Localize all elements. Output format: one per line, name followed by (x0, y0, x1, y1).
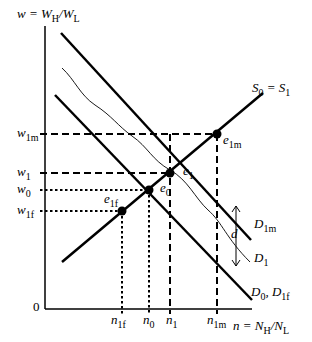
point-e1f (118, 207, 127, 216)
point-label-e1m: e1m (223, 132, 242, 150)
origin-label: 0 (33, 299, 40, 314)
demand-curve-d1 (62, 68, 250, 262)
point-label-e1: e1 (183, 163, 194, 181)
quantity-label-n1: n1 (166, 312, 178, 330)
point-e0 (145, 186, 154, 195)
d0-label: D0, D1f (250, 284, 290, 302)
y-axis-label: w = WH/WL (17, 6, 80, 24)
d1m-label: D1m (253, 216, 276, 234)
supply-label: S0 = S1 (252, 80, 290, 98)
d1-label: D1 (253, 250, 268, 268)
quantity-label-n1f: n1f (111, 312, 127, 330)
x-axis-label: n = NH/NL (233, 318, 289, 336)
gap-label: d (231, 226, 238, 241)
quantity-label-n0: n0 (143, 312, 155, 330)
wage-label-w1: w1 (17, 164, 31, 182)
quantity-label-n1m: n1m (207, 312, 227, 330)
point-label-e1f: e1f (104, 191, 119, 209)
wage-label-w0: w0 (17, 181, 31, 199)
wage-label-w1f: w1f (17, 202, 35, 220)
supply-demand-diagram: w = WH/WL n = NH/NL 0 S0 = S1 D1m D1 D0,… (0, 0, 312, 342)
point-e1m (213, 130, 222, 139)
diagram-canvas: w = WH/WL n = NH/NL 0 S0 = S1 D1m D1 D0,… (0, 0, 312, 342)
wage-label-w1m: w1m (17, 125, 39, 143)
point-e1 (166, 169, 175, 178)
